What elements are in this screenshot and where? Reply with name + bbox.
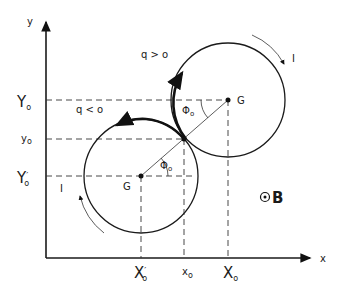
Y0-prime-label: Y′o (16, 169, 29, 188)
upper-angle-label: Φo (182, 105, 194, 118)
X0-label: Xo (223, 264, 238, 283)
lower-arc-arrow (117, 119, 146, 125)
field-dot-icon (264, 196, 267, 199)
upper-angle-arc (201, 100, 208, 118)
lower-current-arrow (80, 196, 104, 233)
upper-center-point (226, 98, 231, 103)
diagram: y x G G q > o q < o I I Φo Φo Yo yo Y′o … (0, 0, 343, 296)
lower-charge-label: q < o (76, 104, 103, 115)
diagram-canvas: y x G G q > o q < o I I Φo Φo Yo yo Y′o … (0, 0, 343, 296)
lower-current-label: I (60, 183, 63, 194)
Y0-label: Yo (16, 93, 31, 112)
x0-label: xo (182, 266, 193, 280)
upper-center-label: G (237, 95, 245, 106)
X0-prime-label: X′o (134, 264, 147, 283)
contact-point (182, 137, 187, 142)
upper-charge-label: q > o (141, 49, 168, 60)
lower-angle-label: Φo (160, 160, 172, 173)
y0-label: yo (21, 133, 32, 146)
lower-center-label: G (123, 181, 131, 192)
field-label: B (272, 189, 283, 207)
y-axis-label: y (27, 16, 33, 27)
x-axis-label: x (320, 253, 326, 264)
lower-center-point (139, 174, 144, 179)
upper-current-label: I (292, 53, 295, 64)
